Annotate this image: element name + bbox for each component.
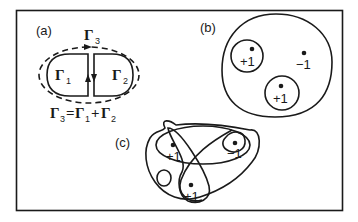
charge-dot (171, 143, 176, 148)
panel-a-label: (a) (36, 23, 52, 38)
gamma1-subscript: 1 (66, 76, 71, 86)
gamma2-symbol: Γ (112, 67, 122, 83)
eq-term1-sub: 1 (85, 114, 90, 124)
outer-contour-c (146, 121, 259, 199)
eq-equals: = (66, 105, 75, 121)
charge-label: −1 (296, 57, 311, 72)
eq-term2: Γ (101, 105, 111, 121)
empty-loop (157, 170, 171, 186)
panel-c: (c) +1 −1 +1 (115, 121, 259, 204)
gamma3-symbol: Γ (84, 27, 94, 43)
contour-gamma3-dashed (39, 47, 139, 103)
charge-label: +1 (273, 91, 288, 106)
arrow-left-icon (84, 44, 92, 50)
charge-dot (279, 84, 284, 89)
panel-b-label: (b) (200, 20, 216, 35)
equation: Γ 3 = Γ 1 + Γ 2 (50, 105, 116, 124)
arrow-down-icon (91, 74, 97, 82)
charge-label: +1 (184, 189, 199, 204)
panel-c-label: (c) (115, 135, 130, 150)
charge-label: +1 (240, 54, 255, 69)
eq-lhs-sub: 3 (60, 114, 65, 124)
arrow-up-icon (85, 74, 91, 82)
charge-label: −1 (227, 146, 242, 161)
diagram-canvas: (a) Γ 3 Γ 1 Γ 2 Γ 3 = Γ 1 + Γ 2 (0, 0, 358, 222)
panel-a: (a) Γ 3 Γ 1 Γ 2 Γ 3 = Γ 1 + Γ 2 (36, 23, 139, 124)
panel-b: (b) +1 −1 +1 (200, 14, 332, 117)
charge-dot (302, 51, 307, 56)
eq-term1: Γ (75, 105, 85, 121)
gamma2-subscript: 2 (123, 76, 128, 86)
eq-lhs: Γ (50, 105, 60, 121)
gamma1-symbol: Γ (55, 67, 65, 83)
contour-gamma1 (47, 54, 88, 96)
charge-dot (233, 141, 238, 146)
eq-term2-sub: 2 (111, 114, 116, 124)
gamma3-subscript: 3 (95, 36, 100, 46)
eq-plus: + (91, 105, 100, 121)
charge-dot (189, 183, 194, 188)
charge-label: +1 (166, 149, 181, 164)
charge-dot (250, 47, 255, 52)
